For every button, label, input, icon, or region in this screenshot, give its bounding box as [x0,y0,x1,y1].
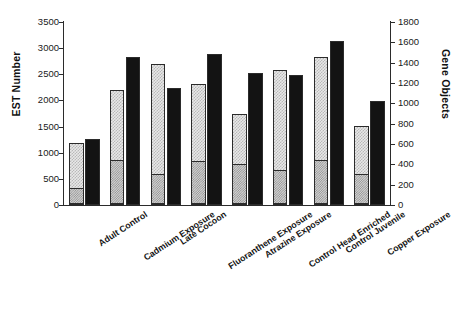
bar-group [69,22,100,205]
bar-est-lower-segment [232,164,247,204]
bar-group [232,22,263,205]
right-tick-label: 1000 [398,98,419,108]
bar-est-number [151,64,166,205]
bar-est-number [273,70,288,205]
right-tick-mark [391,185,395,186]
bar-gene-objects [85,139,100,205]
left-tick-label: 2000 [38,95,59,105]
left-tick-label: 3500 [38,17,59,27]
bar-est-number [191,84,206,205]
right-tick-mark [391,205,395,206]
left-tick-mark [59,205,63,206]
bar-group [110,22,141,205]
bar-est-lower-segment [273,170,288,205]
right-tick-mark [391,164,395,165]
bar-group [273,22,304,205]
x-axis-spine [63,205,391,206]
left-tick-mark [59,127,63,128]
x-axis-category-label: Adult Control [97,210,149,248]
left-tick-label: 3000 [38,43,59,53]
left-tick-mark [59,100,63,101]
right-tick-mark [391,103,395,104]
right-tick-mark [391,83,395,84]
bar-est-lower-segment [314,160,329,204]
right-tick-mark [391,124,395,125]
bar-gene-objects [370,101,385,206]
bar-est-lower-segment [69,188,84,204]
bar-est-number [69,143,84,205]
right-tick-mark [391,42,395,43]
right-tick-label: 1200 [398,78,419,88]
bar-est-number [232,114,247,206]
bar-gene-objects [126,57,141,205]
left-tick-mark [59,153,63,154]
right-tick-label: 800 [398,119,414,129]
bar-est-lower-segment [151,174,166,204]
bar-group [191,22,222,205]
bar-est-number [314,57,329,205]
right-axis-spine [390,21,391,206]
x-axis-category-label: Fluoranthene Exposure [226,210,313,271]
right-tick-label: 1400 [398,58,419,68]
bar-est-number [354,126,369,205]
right-tick-label: 400 [398,159,414,169]
right-tick-label: 200 [398,180,414,190]
left-tick-label: 1000 [38,148,59,158]
left-tick-mark [59,22,63,23]
bar-gene-objects [167,88,182,205]
right-tick-mark [391,144,395,145]
left-axis-title: EST Number [10,34,22,134]
left-tick-label: 0 [54,200,59,210]
right-tick-label: 600 [398,139,414,149]
bar-chart: EST Number Gene Objects 0500100015002000… [0,0,463,316]
bar-est-lower-segment [354,174,369,204]
right-tick-label: 1800 [398,17,419,27]
left-tick-label: 2500 [38,69,59,79]
left-tick-mark [59,179,63,180]
bar-gene-objects [330,41,345,205]
right-axis-title: Gene Objects [440,34,452,134]
bar-gene-objects [289,75,304,205]
bar-est-number [110,90,125,205]
bar-est-lower-segment [191,161,206,204]
bar-group [151,22,182,205]
right-tick-mark [391,63,395,64]
left-tick-label: 1500 [38,122,59,132]
left-tick-mark [59,74,63,75]
right-tick-mark [391,22,395,23]
plot-area [64,22,390,205]
bar-group [314,22,345,205]
left-tick-mark [59,48,63,49]
bar-gene-objects [207,54,222,205]
bar-est-lower-segment [110,160,125,204]
bar-gene-objects [248,73,263,205]
right-tick-label: 1600 [398,37,419,47]
bar-group [354,22,385,205]
left-tick-label: 500 [43,174,59,184]
